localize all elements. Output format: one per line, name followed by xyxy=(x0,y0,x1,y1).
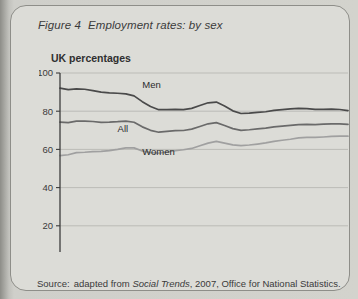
svg-text:40: 40 xyxy=(42,182,53,193)
series-line-men xyxy=(60,88,348,113)
series-line-all xyxy=(60,121,348,132)
source-text-suffix: , 2007, Office for National Statistics. xyxy=(190,278,341,289)
chart-y-axis-ticks: 020406080100 xyxy=(39,67,60,252)
svg-text:100: 100 xyxy=(39,67,53,78)
svg-text:80: 80 xyxy=(42,106,53,117)
source-text-prefix: adapted from xyxy=(74,278,130,289)
svg-text:20: 20 xyxy=(42,220,53,231)
series-line-women xyxy=(60,136,348,155)
chart-series-labels: MenAllWomen xyxy=(118,79,175,157)
svg-text:60: 60 xyxy=(42,144,53,155)
figure-number: Figure 4 xyxy=(38,19,81,31)
chart-gridlines xyxy=(60,73,348,226)
source-label: Source: xyxy=(37,278,70,289)
figure-title: Figure 4Employment rates: by sex xyxy=(38,19,223,31)
source-publication: Social Trends xyxy=(132,278,189,289)
figure-panel: Figure 4Employment rates: by sex UK perc… xyxy=(10,5,350,291)
chart-plot-area: UK percentages 020406080100 197119761981… xyxy=(39,52,353,252)
chart-series-lines xyxy=(60,88,348,156)
source-note: Source:adapted from Social Trends, 2007,… xyxy=(37,278,341,289)
figure-title-text: Employment rates: by sex xyxy=(88,19,223,31)
employment-rates-line-chart: 020406080100 197119761981198619911996200… xyxy=(39,52,353,252)
series-label-women: Women xyxy=(142,146,175,157)
page-background: Figure 4Employment rates: by sex UK perc… xyxy=(0,0,358,299)
series-label-all: All xyxy=(118,123,129,134)
series-label-men: Men xyxy=(142,79,160,90)
